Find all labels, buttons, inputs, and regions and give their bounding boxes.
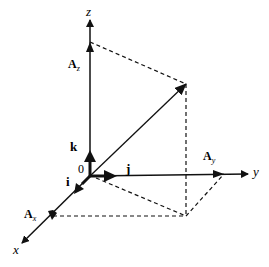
vector-diagram: z y x Az Ay Ax k j i 0 <box>0 0 269 267</box>
unit-i <box>82 176 90 184</box>
ay-label: Ay <box>203 150 215 165</box>
unit-i-label: i <box>66 175 70 188</box>
az-label: Az <box>68 58 80 73</box>
vector-a <box>90 84 186 176</box>
x-axis-label: x <box>13 243 19 256</box>
unit-k-label: k <box>70 140 77 153</box>
unit-j-label: j <box>126 162 130 175</box>
diagram-graphics <box>0 0 269 267</box>
z-axis-label: z <box>86 5 91 18</box>
ay-arrowhead <box>213 170 224 178</box>
ax-label: Ax <box>24 208 36 223</box>
y-axis-label: y <box>253 165 259 178</box>
origin-label: 0 <box>78 163 84 175</box>
